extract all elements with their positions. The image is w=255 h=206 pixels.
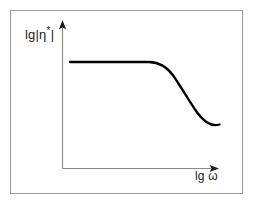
y-axis-label-prefix: lg| bbox=[25, 27, 39, 42]
figure-container: lg|η*| lg ω bbox=[0, 0, 255, 206]
viscosity-curve bbox=[70, 62, 220, 125]
x-axis-label: lg ω bbox=[195, 170, 218, 182]
y-axis-label: lg|η*| bbox=[25, 28, 54, 41]
x-axis-label-prefix: lg bbox=[195, 169, 208, 183]
y-axis-label-suffix: | bbox=[51, 27, 54, 42]
y-axis-label-symbol: η bbox=[39, 27, 46, 42]
x-axis-label-symbol: ω bbox=[208, 169, 218, 183]
